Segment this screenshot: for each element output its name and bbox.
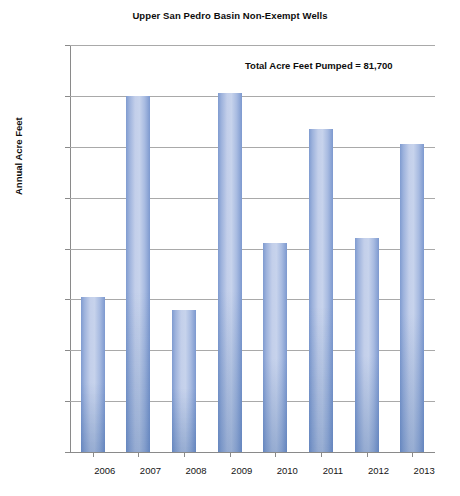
gridline bbox=[70, 350, 435, 351]
bar bbox=[172, 310, 196, 452]
y-axis-tick bbox=[65, 96, 70, 97]
y-axis-tick bbox=[65, 198, 70, 199]
bar bbox=[400, 144, 424, 452]
y-axis-tick bbox=[65, 299, 70, 300]
chart-title: Upper San Pedro Basin Non-Exempt Wells bbox=[0, 10, 460, 21]
chart-container: Upper San Pedro Basin Non-Exempt Wells T… bbox=[0, 0, 460, 496]
y-axis-tick bbox=[65, 401, 70, 402]
bar bbox=[81, 297, 105, 452]
gridline bbox=[70, 45, 435, 46]
x-axis-tick bbox=[230, 452, 231, 457]
y-axis-tick bbox=[65, 350, 70, 351]
gridline bbox=[70, 249, 435, 250]
gridline bbox=[70, 452, 435, 453]
bar bbox=[263, 243, 287, 452]
x-axis-tick-label: 2013 bbox=[394, 465, 454, 476]
gridline bbox=[70, 198, 435, 199]
x-axis-tick bbox=[275, 452, 276, 457]
x-axis-tick bbox=[138, 452, 139, 457]
y-axis-title: Annual Acre Feet bbox=[13, 35, 24, 195]
x-axis-tick bbox=[412, 452, 413, 457]
x-axis-tick bbox=[367, 452, 368, 457]
x-axis-tick bbox=[321, 452, 322, 457]
bar bbox=[126, 96, 150, 452]
x-axis-tick bbox=[184, 452, 185, 457]
gridline bbox=[70, 147, 435, 148]
bar bbox=[355, 238, 379, 452]
y-axis-tick bbox=[65, 45, 70, 46]
y-axis-tick bbox=[65, 249, 70, 250]
bar bbox=[218, 93, 242, 452]
y-axis-tick bbox=[65, 452, 70, 453]
y-axis-tick bbox=[65, 147, 70, 148]
gridline bbox=[70, 299, 435, 300]
x-axis-tick bbox=[93, 452, 94, 457]
plot-area: Annual Acre Feet 10800106001040010200100… bbox=[70, 45, 435, 452]
gridline bbox=[70, 96, 435, 97]
bar bbox=[309, 129, 333, 452]
gridline bbox=[70, 401, 435, 402]
